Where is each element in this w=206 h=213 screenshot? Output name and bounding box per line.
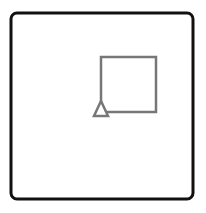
diagram-canvas <box>0 0 206 213</box>
square-shape <box>101 57 156 112</box>
triangle-shape <box>94 101 108 116</box>
